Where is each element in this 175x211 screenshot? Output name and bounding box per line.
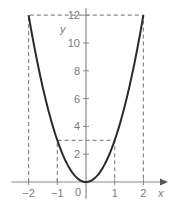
axes [11,8,168,198]
y-tick-label: 8 [74,65,80,77]
y-tick-label: 2 [74,148,80,160]
chart-svg: −2−11224681012 x y 0 [0,0,175,211]
x-axis-label: x [157,187,164,199]
x-tick-label: 1 [112,187,118,199]
y-tick-label: 6 [74,93,80,105]
y-axis-label: y [59,23,67,35]
x-tick-label: −1 [51,187,64,199]
y-tick-label: 12 [68,9,80,21]
x-tick-label: −2 [22,187,35,199]
y-tick-label: 10 [68,37,80,49]
y-tick-label: 4 [74,120,80,132]
x-axis-arrow-icon [160,179,168,186]
origin-label: 0 [75,186,81,198]
parabola-chart: −2−11224681012 x y 0 [0,0,175,211]
ticks: −2−11224681012 [22,9,146,199]
x-tick-label: 2 [140,187,146,199]
